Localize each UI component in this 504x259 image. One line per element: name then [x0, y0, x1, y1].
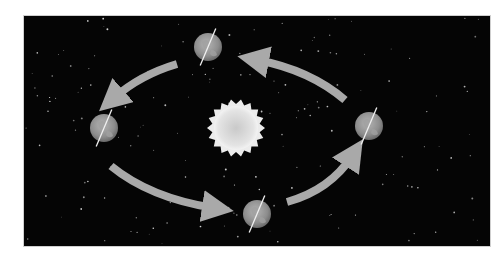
star: [88, 68, 89, 69]
star: [102, 18, 104, 20]
star: [223, 176, 225, 178]
star: [282, 23, 283, 24]
star: [396, 111, 397, 112]
star: [153, 227, 155, 229]
sun-disc: [214, 106, 258, 150]
star: [273, 80, 274, 81]
star: [391, 48, 392, 49]
star: [185, 176, 186, 177]
star: [87, 181, 89, 183]
star: [63, 50, 64, 51]
star: [90, 84, 92, 86]
star: [153, 97, 154, 98]
star: [136, 217, 137, 218]
earth-icon-right: [355, 108, 383, 145]
star: [27, 238, 29, 240]
star: [254, 29, 255, 30]
star: [255, 176, 257, 178]
star: [330, 52, 332, 54]
orbit-arrow-left-to-bottom: [111, 166, 214, 208]
star: [52, 75, 53, 76]
star: [34, 87, 36, 89]
orbit-arrow-right-to-top: [257, 60, 345, 100]
star: [411, 186, 413, 188]
star: [273, 205, 275, 207]
star: [450, 157, 452, 159]
star: [37, 95, 39, 97]
star: [312, 40, 313, 41]
star: [327, 106, 329, 108]
star: [331, 130, 333, 132]
star: [467, 91, 468, 92]
star: [153, 150, 154, 151]
star: [164, 104, 166, 106]
star: [409, 58, 410, 59]
star: [70, 65, 72, 67]
star: [291, 187, 293, 189]
orbit-arrow-top-to-left: [114, 64, 177, 98]
star: [331, 214, 332, 215]
star: [278, 92, 279, 93]
star: [104, 197, 105, 198]
star: [307, 104, 308, 105]
star: [382, 184, 384, 186]
star: [73, 120, 75, 122]
star: [478, 19, 479, 20]
star: [296, 117, 297, 118]
star: [318, 107, 320, 109]
star: [329, 35, 330, 36]
star: [137, 232, 138, 233]
star: [239, 53, 240, 54]
star: [408, 240, 410, 242]
star: [270, 113, 271, 114]
star: [357, 162, 358, 163]
star: [49, 97, 50, 98]
star: [178, 24, 179, 25]
star: [471, 198, 473, 200]
star: [304, 108, 306, 110]
star: [236, 214, 238, 216]
orbit-arrow-bottom-to-right: [287, 156, 352, 202]
star: [240, 74, 242, 76]
star: [270, 231, 271, 232]
orbit-diagram: [0, 0, 504, 259]
star: [118, 137, 119, 138]
star: [170, 202, 171, 203]
star: [47, 110, 49, 112]
star: [208, 215, 210, 217]
star: [94, 55, 95, 56]
star: [103, 26, 104, 27]
star: [81, 88, 82, 89]
star: [388, 80, 390, 82]
star: [140, 127, 141, 128]
star: [162, 243, 163, 244]
star: [212, 68, 213, 69]
star: [329, 215, 330, 216]
star: [237, 236, 239, 238]
star: [233, 213, 234, 214]
star: [407, 185, 408, 186]
star: [36, 52, 38, 54]
star: [277, 241, 279, 243]
star: [464, 18, 465, 19]
star: [393, 174, 394, 175]
star: [436, 95, 437, 96]
star: [55, 98, 56, 99]
star: [386, 174, 387, 175]
star: [80, 208, 82, 210]
star: [228, 34, 230, 36]
star: [335, 18, 336, 19]
star: [125, 106, 127, 108]
star: [225, 169, 227, 171]
star: [130, 231, 131, 232]
star: [426, 111, 427, 112]
star: [469, 134, 470, 135]
star: [75, 130, 76, 131]
star: [437, 169, 438, 170]
star: [364, 54, 365, 55]
star: [435, 232, 436, 233]
star: [337, 84, 339, 86]
star: [49, 101, 50, 102]
star: [83, 196, 85, 198]
earth-icon-left: [90, 110, 118, 147]
